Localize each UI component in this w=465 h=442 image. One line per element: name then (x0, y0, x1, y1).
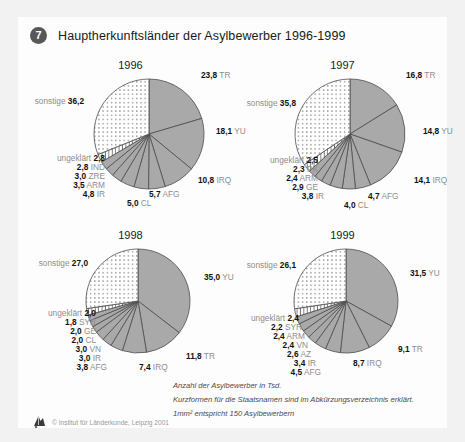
pie-label-sonstige: sonstige 26,1 (247, 261, 296, 269)
pie-label-value: 11,8 (186, 351, 202, 361)
pie-label-VN: 3,0 VN (76, 345, 101, 353)
pie-label-country: IRQ (216, 175, 231, 185)
pie-label-country: ZRE (88, 171, 105, 181)
pie-label-VN: 2,4 VN (283, 341, 308, 349)
pie-label-ungeklärt: ungeklärt 2,5 (270, 156, 318, 164)
pie-label-ZRE: 3,0 ZRE (75, 172, 105, 180)
pie-label-country: ungeklärt (251, 313, 285, 323)
pie-svg (238, 229, 447, 389)
pie-chart-1996: 199623,8 TR18,1 YU10,8 IRQ5,7 AFG5,0 CL4… (26, 59, 235, 219)
pie-label-country: ARM (300, 173, 318, 183)
pie-label-YU: 35,0 YU (204, 273, 234, 281)
pie-label-value: 7,4 (139, 362, 151, 372)
pie-label-ARM: 2,4 ARM (273, 332, 305, 340)
pie-label-country: ungeklärt (48, 308, 82, 318)
pie-chart-1998: 199835,0 YU11,8 TR7,4 IRQ3,8 AFG3,0 IR3,… (26, 229, 235, 389)
pie-label-value: 3,0 (75, 171, 87, 181)
pie-label-value: 9,1 (398, 344, 410, 354)
pie-label-IND: 2,8 IND (77, 163, 105, 171)
pie-label-value: 4,0 (344, 200, 356, 210)
pie-label-value: 31,5 (410, 268, 426, 278)
pie-label-CL: 2,0 CL (72, 336, 96, 344)
pie-label-country: AFG (304, 367, 321, 377)
pie-label-SYR: 2,2 SYR (271, 323, 302, 331)
pie-label-YU: 14,8 YU (423, 127, 453, 135)
pie-label-country: IR (316, 191, 324, 201)
pie-label-country: TR (204, 351, 215, 361)
pie-label-value: 36,2 (68, 96, 84, 106)
pie-label-value: 2,4 (287, 313, 299, 323)
pie-label-value: 2,4 (273, 331, 285, 341)
pie-label-country: AFG (381, 191, 398, 201)
pie-label-country: IR (93, 353, 101, 363)
pie-label-value: 3,5 (73, 180, 85, 190)
pie-label-value: 2,0 (72, 335, 84, 345)
pie-label-country: TR (424, 70, 435, 80)
pie-label-value: 3,8 (77, 362, 89, 372)
pie-label-IR: 3,0 IR (79, 354, 101, 362)
institute-logo-icon (32, 415, 47, 429)
pie-slice-sonstige (86, 249, 138, 309)
pie-label-value: 3,8 (302, 191, 314, 201)
pie-label-country: IRQ (432, 175, 447, 185)
pie-label-country: GE (84, 326, 96, 336)
pie-label-value: 2,8 (93, 153, 105, 163)
pie-label-country: ARM (287, 331, 305, 341)
pie-label-country: CL (85, 335, 96, 345)
pie-label-country: IRQ (153, 362, 168, 372)
pie-label-country: AZ (300, 349, 311, 359)
pie-label-AFG: 4,7 AFG (368, 192, 398, 200)
credit-text: © Institut für Länderkunde, Leipzig 2001 (52, 419, 169, 426)
pie-label-value: 4,5 (291, 367, 303, 377)
pie-label-value: 2,3 (293, 164, 305, 174)
pie-label-GE: 2,9 GE (292, 183, 318, 191)
pie-svg (238, 59, 447, 219)
pie-label-country: AFG (162, 189, 179, 199)
pie-label-sonstige: sonstige 36,2 (35, 97, 84, 105)
pie-label-value: 14,8 (423, 126, 439, 136)
pie-label-PK: 2,3 PK (293, 165, 318, 173)
pie-label-IR: 3,8 IR (302, 192, 324, 200)
pie-label-country: YU (428, 268, 440, 278)
pie-label-country: VN (296, 340, 308, 350)
pie-label-TR: 16,8 TR (406, 71, 435, 79)
pie-label-ARM: 2,4 ARM (286, 174, 318, 182)
pie-label-value: 8,7 (353, 358, 365, 368)
pie-label-value: 3,0 (79, 353, 91, 363)
pie-label-value: 2,5 (306, 155, 318, 165)
pie-label-sonstige: sonstige 27,0 (39, 259, 88, 267)
pie-label-country: ARM (87, 180, 105, 190)
pie-label-country: SYR (285, 322, 302, 332)
pie-label-country: GE (306, 182, 318, 192)
pie-label-value: 2,0 (70, 326, 82, 336)
pie-label-value: 2,6 (287, 349, 299, 359)
pie-label-country: IRQ (367, 358, 382, 368)
pie-label-ungeklärt: ungeklärt 2,0 (48, 309, 96, 317)
pie-svg (26, 59, 235, 219)
pie-label-sonstige: sonstige 35,8 (247, 99, 296, 107)
pie-label-country: CL (141, 198, 152, 208)
pie-label-country: SYR (79, 317, 96, 327)
chart-year-label: 1999 (238, 229, 447, 241)
pie-label-value: 23,8 (201, 70, 217, 80)
pie-label-value: 4,7 (368, 191, 380, 201)
pie-label-country: IND (91, 162, 105, 172)
pie-label-value: 35,8 (280, 98, 296, 108)
pie-label-value: 16,8 (406, 70, 422, 80)
figure-note: 1mm² entspricht 150 Asylbewerbern (173, 407, 414, 421)
pie-label-value: 2,0 (84, 308, 96, 318)
pie-label-value: 10,8 (198, 175, 214, 185)
pie-label-ungeklärt: ungeklärt 2,4 (251, 314, 299, 322)
pie-label-value: 4,8 (83, 189, 95, 199)
pie-label-AFG: 4,5 AFG (291, 368, 321, 376)
pie-label-country: sonstige (247, 260, 278, 270)
pie-label-value: 3,4 (294, 358, 306, 368)
pie-label-TR: 11,8 TR (186, 352, 215, 360)
pie-label-country: ungeklärt (270, 155, 304, 165)
pie-label-country: sonstige (247, 98, 278, 108)
pie-label-country: IR (308, 358, 316, 368)
pie-label-GE: 2,0 GE (70, 327, 96, 335)
pie-label-YU: 31,5 YU (410, 269, 440, 277)
pie-label-value: 18,1 (216, 126, 232, 136)
figure-note: Anzahl der Asylbewerber in Tsd. (173, 379, 414, 393)
